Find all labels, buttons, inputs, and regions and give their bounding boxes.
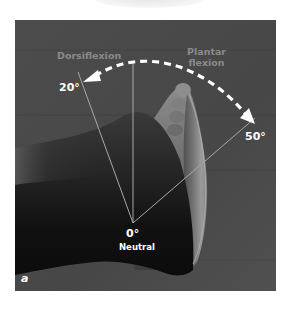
ankle-range-of-motion-photo: Dorsiflexion Plantar flexion 20° 50° 0° … [15, 20, 276, 291]
top-shadow [95, 0, 205, 8]
plantar-flexion-angle-label: 50° [245, 131, 266, 142]
plantar-flexion-label-line1: Plantar [187, 46, 226, 57]
plantar-flexion-label-line2: flexion [187, 57, 226, 68]
neutral-angle-label: 0° [126, 228, 139, 239]
neutral-label: Neutral [119, 243, 155, 252]
dorsiflexion-label: Dorsiflexion [57, 50, 121, 61]
panel-label: a [21, 273, 28, 284]
plantar-flexion-label: Plantar flexion [187, 46, 226, 68]
dorsiflexion-angle-label: 20° [59, 82, 80, 93]
